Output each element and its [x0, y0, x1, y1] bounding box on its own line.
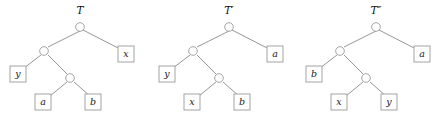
- edge-root-to-internal2: [197, 31, 229, 47]
- leaf-label-level3-right: b: [239, 96, 245, 107]
- leaf-label-level3-right: y: [385, 96, 392, 107]
- edge-internal3-to-leaf-left: [199, 82, 216, 96]
- edge-internal2-to-internal3: [197, 55, 216, 74]
- edge-internal2-to-leaf-left: [24, 55, 41, 68]
- tree-title: T: [76, 4, 84, 16]
- leaf-label-root-right: a: [272, 48, 278, 59]
- leaf-label-root-right: x: [123, 48, 129, 59]
- root-node: [372, 23, 381, 32]
- edge-internal2-to-internal3: [48, 55, 67, 74]
- leaf-label-level3-left: x: [189, 96, 195, 107]
- leaf-label-level3-left: a: [40, 96, 46, 107]
- edges-group-1: [24, 30, 122, 96]
- tree-title: T′: [224, 4, 234, 16]
- edge-root-to-leaf-right: [232, 30, 271, 50]
- tree-diagram-3: T″ a b x y: [294, 0, 441, 120]
- tree-panel-3: T″ a b x y: [294, 0, 441, 120]
- internal-node-level2: [336, 47, 345, 56]
- internal-node-level2: [40, 47, 49, 56]
- tree-diagram-1: T x y a b: [0, 0, 147, 120]
- edge-internal3-to-leaf-left: [346, 82, 363, 96]
- leaf-label-level2-left: y: [163, 68, 170, 79]
- internal-node-level2: [189, 47, 198, 56]
- root-node: [76, 23, 85, 32]
- leaf-label-level3-left: x: [336, 96, 342, 107]
- leaf-label-root-right: a: [419, 48, 425, 59]
- leaf-label-level2-left: b: [311, 68, 317, 79]
- tree-diagram-2: T′ a y x b: [147, 0, 294, 120]
- edge-root-to-leaf-right: [379, 30, 418, 50]
- edge-internal2-to-leaf-left: [320, 55, 337, 68]
- leaf-label-level2-left: y: [14, 68, 21, 79]
- edge-root-to-internal2: [48, 31, 80, 47]
- internal-node-level3: [362, 74, 371, 83]
- edge-internal2-to-leaf-left: [173, 55, 190, 68]
- tree-figure: T x y a b T′ a: [0, 0, 441, 120]
- leaf-label-level3-right: b: [90, 96, 96, 107]
- internal-node-level3: [66, 74, 75, 83]
- edge-root-to-leaf-right: [83, 30, 122, 50]
- edge-internal3-to-leaf-left: [50, 82, 67, 96]
- internal-node-level3: [215, 74, 224, 83]
- tree-title: T″: [371, 4, 382, 16]
- tree-panel-2: T′ a y x b: [147, 0, 294, 120]
- edge-root-to-internal2: [344, 31, 376, 47]
- edges-group-3: [320, 30, 418, 96]
- tree-panel-1: T x y a b: [0, 0, 147, 120]
- root-node: [225, 23, 234, 32]
- edges-group-2: [173, 30, 271, 96]
- edge-internal2-to-internal3: [344, 55, 363, 74]
